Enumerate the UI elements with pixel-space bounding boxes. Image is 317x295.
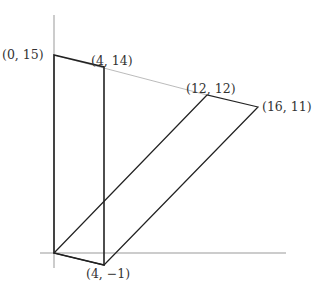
label-p3: (16, 11): [262, 99, 312, 114]
label-p2: (12, 12): [186, 81, 236, 96]
diagram-canvas: (0, 15) (4, 14) (12, 12) (16, 11) (4, −1…: [0, 0, 317, 295]
label-p1: (4, 14): [91, 53, 133, 68]
sheared-parallelogram: [54, 95, 258, 265]
label-p4: (4, −1): [86, 266, 130, 281]
original-parallelogram: [54, 55, 104, 265]
diagram-svg: [0, 0, 317, 295]
label-p0: (0, 15): [2, 47, 44, 62]
